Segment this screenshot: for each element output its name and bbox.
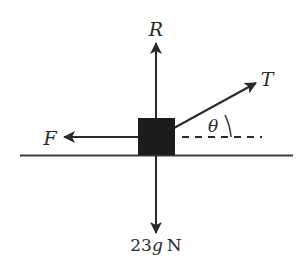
angle-arc: [225, 115, 231, 137]
weight-number: 23: [130, 235, 152, 255]
normal-force-label: R: [148, 18, 163, 40]
force-diagram: R T F θ 23gN: [0, 0, 307, 279]
friction-force-label: F: [42, 127, 57, 149]
angle-theta-label: θ: [208, 116, 218, 136]
weight-g-symbol: g: [152, 235, 163, 255]
weight-unit: N: [167, 235, 182, 255]
tension-force-label: T: [261, 68, 275, 90]
block: [138, 118, 175, 155]
weight-force-label: 23gN: [130, 235, 182, 255]
